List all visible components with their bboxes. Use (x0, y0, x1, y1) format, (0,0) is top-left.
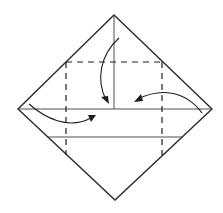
paper-outline (18, 15, 212, 200)
top-fold-arrowhead (101, 96, 109, 104)
left-fold-arrow (29, 104, 96, 123)
right-fold-arrow (134, 93, 202, 113)
top-fold-arrow (101, 38, 119, 104)
origami-diagram (0, 0, 223, 213)
right-fold-arrowhead (134, 94, 143, 102)
